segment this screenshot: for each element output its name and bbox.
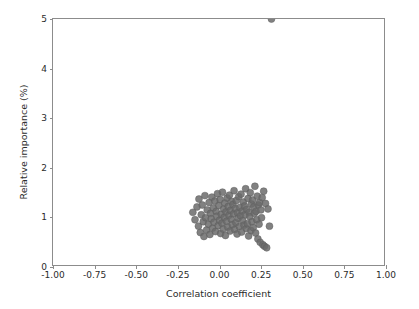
x-tick-mark: [95, 265, 96, 269]
y-tick-label: 3: [41, 114, 47, 123]
plot-area: 012345 -1.00-0.75-0.50-0.250.000.250.500…: [52, 18, 385, 266]
x-tick-label: -1.00: [41, 271, 64, 280]
data-point: [263, 244, 270, 251]
x-tick-mark: [136, 265, 137, 269]
data-point: [260, 188, 267, 195]
y-tick-label: 2: [41, 163, 47, 172]
x-tick-mark: [53, 265, 54, 269]
data-point: [192, 216, 199, 223]
x-tick-label: 0.00: [209, 271, 229, 280]
x-tick-mark: [220, 265, 221, 269]
scatter-plot-figure: Relative importance (%) Correlation coef…: [0, 0, 419, 309]
y-axis-label: Relative importance (%): [18, 18, 29, 266]
x-tick-label: -0.75: [83, 271, 106, 280]
data-point: [258, 214, 265, 221]
data-point: [219, 189, 226, 196]
y-tick-label: 5: [41, 15, 47, 24]
y-tick-label: 4: [41, 64, 47, 73]
x-tick-label: -0.50: [125, 271, 148, 280]
x-tick-label: 1.00: [376, 271, 396, 280]
x-tick-mark: [178, 265, 179, 269]
data-point: [257, 206, 264, 213]
y-tick-label: 1: [41, 213, 47, 222]
x-axis-label: Correlation coefficient: [52, 288, 385, 299]
data-point: [256, 221, 263, 228]
x-tick-label: 0.75: [334, 271, 354, 280]
x-tick-label: 0.50: [293, 271, 313, 280]
x-tick-mark: [344, 265, 345, 269]
data-point: [251, 183, 258, 190]
data-points-group: [189, 19, 275, 251]
data-point: [247, 189, 254, 196]
y-axis-label-container: Relative importance (%): [18, 18, 30, 266]
scatter-points-layer: [53, 19, 384, 265]
data-point: [265, 205, 272, 212]
x-tick-label: 0.25: [251, 271, 271, 280]
data-point: [201, 192, 208, 199]
data-point: [268, 19, 275, 22]
x-tick-mark: [303, 265, 304, 269]
x-tick-mark: [386, 265, 387, 269]
x-tick-label: -0.25: [166, 271, 189, 280]
data-point: [266, 223, 273, 230]
data-point: [231, 187, 238, 194]
x-tick-mark: [261, 265, 262, 269]
